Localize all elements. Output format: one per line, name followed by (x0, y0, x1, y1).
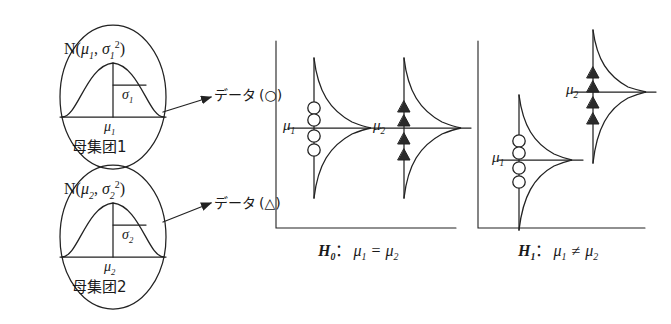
population-2-mu-label: μ2 (104, 260, 115, 276)
data-label-triangle: データ(△) (214, 196, 281, 211)
panel-h1-label-mu1: μ1 (492, 150, 504, 168)
panel-h1-group-mu1 (498, 95, 583, 230)
population-1-sigma-label: σ1 (122, 88, 133, 104)
data-marker-triangle-icon: (△) (259, 195, 281, 211)
panel-h1-markers-mu1 (513, 135, 525, 188)
arrow-population-2-to-data (163, 203, 211, 222)
panel-h0-label-mu2: μ2 (373, 118, 385, 136)
panel-h1-label-mu2: μ2 (566, 82, 578, 100)
population-2-sigma-label: σ2 (122, 228, 133, 244)
panel-h0-group-mu2 (380, 58, 471, 198)
population-2-distribution-label: N(μ2, σ22) (64, 180, 125, 200)
data-label-circle: データ(○) (214, 88, 282, 103)
arrow-population-1-to-data (163, 97, 211, 112)
panel-h1-frame (478, 41, 645, 228)
population-1-distribution-label: N(μ1, σ12) (64, 40, 125, 60)
panel-h0-frame (276, 41, 456, 228)
figure-canvas: N(μ1, σ12) σ1 μ1 母集团1 N(μ2, σ22) σ2 μ2 母… (0, 0, 671, 324)
panel-h0-group-mu1 (288, 58, 381, 198)
population-2-name: 母集团2 (72, 280, 127, 295)
panel-h0-caption: H0：μ1=μ2 (318, 243, 398, 262)
data-marker-circle-icon: (○) (259, 87, 282, 103)
panel-h1-caption: H1：μ1≠μ2 (518, 243, 598, 262)
panel-h1-group-mu2 (572, 30, 656, 163)
population-1-name: 母集团1 (72, 140, 127, 155)
population-1-mu-label: μ1 (104, 120, 115, 136)
panel-h0-label-mu1: μ1 (283, 118, 295, 136)
